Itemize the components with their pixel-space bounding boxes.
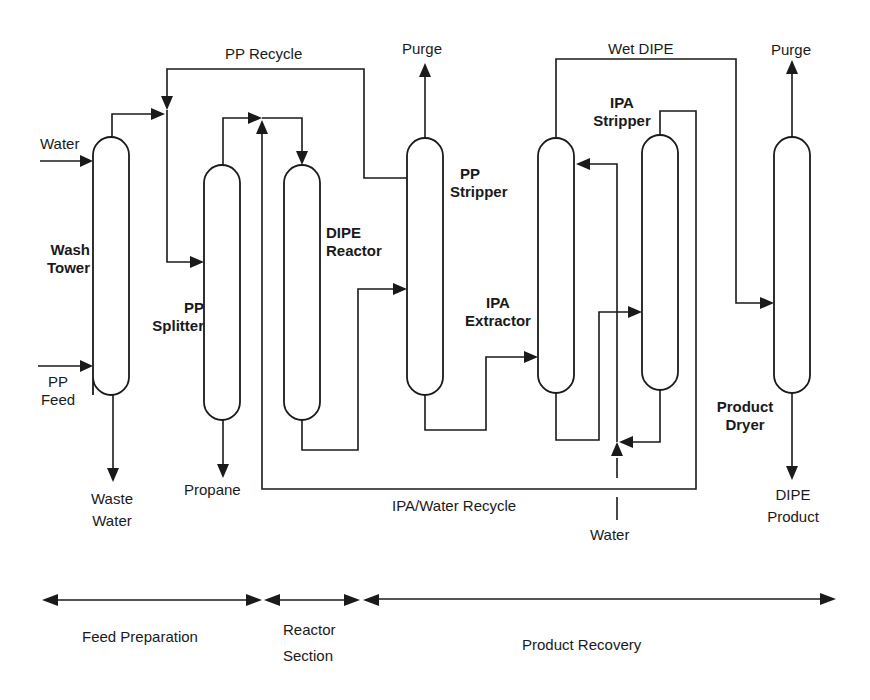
- dipe-product-label: DIPE Product: [762, 486, 824, 526]
- product-dryer-label-line2: Dryer: [705, 416, 785, 434]
- section-arrow-reactor-section: [264, 594, 360, 606]
- section-reactor-label: Reactor Section: [283, 621, 336, 665]
- stream-dipe-product: [786, 393, 798, 480]
- ipa-extractor-vessel: [538, 138, 574, 393]
- dipe-reactor-label-line1: DIPE: [326, 224, 382, 242]
- dipe-reactor-label-line2: Reactor: [326, 242, 382, 260]
- stream-purge-stripper: [419, 63, 431, 137]
- product-dryer-vessel: [774, 137, 810, 393]
- pp-splitter-label: PP Splitter: [130, 299, 204, 335]
- section-arrow-product-recovery: [363, 593, 836, 606]
- stream-ipa-stripper-bottoms: [619, 390, 660, 448]
- pp-feed-label-line2: Feed: [38, 391, 78, 409]
- wash-tower-vessel: [93, 137, 129, 395]
- waste-water-label-line1: Waste: [82, 490, 142, 508]
- waste-water-label: Waste Water: [82, 490, 142, 530]
- wash-tower-label-line1: Wash: [20, 241, 90, 259]
- wash-tower-label-line2: Tower: [20, 259, 90, 277]
- stream-pp-feed: [38, 360, 93, 372]
- dipe-reactor-vessel: [284, 165, 320, 420]
- pp-stripper-label-line1: PP: [450, 165, 508, 183]
- product-dryer-label: Product Dryer: [705, 398, 785, 434]
- ipa-stripper-label-line2: Stripper: [584, 112, 660, 130]
- wet-dipe-label: Wet DIPE: [608, 40, 674, 58]
- ipa-extractor-label: IPA Extractor: [456, 294, 540, 330]
- dipe-product-label-line2: Product: [762, 508, 824, 526]
- pp-feed-label-line1: PP: [38, 373, 78, 391]
- ipa-extractor-label-line1: IPA: [456, 294, 540, 312]
- wash-tower-label: Wash Tower: [20, 241, 90, 277]
- ipa-stripper-label-line1: IPA: [584, 94, 660, 112]
- stream-water-to-wash: [40, 155, 93, 167]
- stream-propane: [217, 420, 229, 478]
- dipe-product-label-line1: DIPE: [762, 486, 824, 504]
- section-arrow-feed-preparation: [42, 594, 262, 606]
- pp-recycle-label: PP Recycle: [225, 45, 302, 63]
- pp-stripper-vessel: [407, 138, 443, 395]
- pp-stripper-label-line2: Stripper: [450, 183, 508, 201]
- section-reactor-label-line1: Reactor: [283, 621, 336, 639]
- section-feed-preparation-label: Feed Preparation: [82, 628, 198, 646]
- ipa-extractor-label-line2: Extractor: [456, 312, 540, 330]
- ipa-stripper-label: IPA Stripper: [584, 94, 660, 130]
- pp-splitter-label-line2: Splitter: [130, 317, 204, 335]
- purge-dryer-label: Purge: [771, 41, 811, 59]
- pp-stripper-label: PP Stripper: [450, 165, 508, 201]
- section-product-recovery-label: Product Recovery: [522, 636, 641, 654]
- pp-splitter-vessel: [204, 165, 240, 420]
- diagram-drawing: [0, 0, 870, 700]
- ipa-stripper-vessel: [642, 135, 678, 390]
- stream-splitter-overhead: [223, 112, 308, 165]
- section-reactor-label-line2: Section: [283, 647, 336, 665]
- product-dryer-label-line1: Product: [705, 398, 785, 416]
- stream-waste-water: [107, 395, 119, 482]
- waste-water-label-line2: Water: [82, 512, 142, 530]
- purge-stripper-label: Purge: [402, 40, 442, 58]
- pp-splitter-label-line1: PP: [130, 299, 204, 317]
- process-flow-diagram: Wash Tower PP Splitter DIPE Reactor PP S…: [0, 0, 870, 700]
- water-extractor-label: Water: [590, 526, 629, 544]
- stream-wash-overhead: [112, 108, 165, 137]
- pp-feed-label: PP Feed: [38, 373, 78, 409]
- ipa-water-recycle-label: IPA/Water Recycle: [392, 497, 516, 515]
- propane-label: Propane: [184, 481, 241, 499]
- stream-purge-dryer: [786, 60, 798, 137]
- dipe-reactor-label: DIPE Reactor: [326, 224, 382, 260]
- water-inlet-label: Water: [40, 135, 79, 153]
